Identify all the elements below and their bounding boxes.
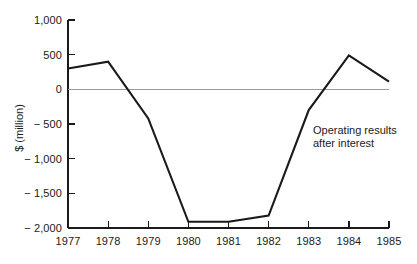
x-tick-label-1983: 1983 [288, 235, 330, 247]
x-tick-label-1978: 1978 [87, 235, 129, 247]
x-tick-label-1982: 1982 [248, 235, 290, 247]
y-tick-label-neg1000: − 1,000 [6, 153, 62, 165]
x-tick-label-1985: 1985 [368, 235, 410, 247]
series-annotation-line-1: Operating results [313, 124, 397, 137]
x-tick-label-1981: 1981 [208, 235, 250, 247]
y-axis-ticks [68, 20, 75, 228]
chart-figure: $ (million) 1,000 500 0 − 500 − 1,000 − … [0, 0, 417, 264]
y-tick-label-neg1500: − 1,500 [6, 187, 62, 199]
x-tick-label-1977: 1977 [47, 235, 89, 247]
y-tick-label-0: 0 [6, 83, 62, 95]
x-tick-label-1980: 1980 [167, 235, 209, 247]
series-annotation-line-2: after interest [313, 137, 397, 150]
y-tick-label-neg2000: − 2,000 [6, 222, 62, 234]
x-tick-label-1979: 1979 [127, 235, 169, 247]
series-annotation: Operating results after interest [313, 124, 397, 150]
y-tick-label-500: 500 [6, 49, 62, 61]
y-tick-label-neg500: − 500 [6, 118, 62, 130]
x-tick-label-1984: 1984 [328, 235, 370, 247]
y-tick-label-1000: 1,000 [6, 14, 62, 26]
